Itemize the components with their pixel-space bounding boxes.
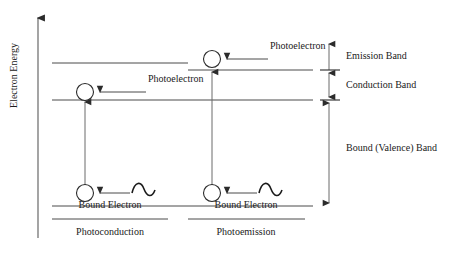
photoconduction-photon-wave-icon (132, 183, 155, 195)
photoconduction-caption: Photoconduction (76, 227, 144, 237)
band-brackets (320, 44, 340, 203)
panel-photoemission (188, 51, 313, 220)
energy-axis-label: Electron Energy (8, 43, 19, 108)
photoconduction-photoelectron-label: Photoelectron (148, 74, 204, 84)
panel-photoconduction (52, 63, 188, 219)
conduction-band-label: Conduction Band (346, 80, 416, 90)
photoemission-photon-wave-icon (259, 183, 282, 195)
photoemission-photoelectron-circle (204, 51, 221, 68)
energy-band-diagram (0, 0, 452, 260)
photoemission-caption: Photoemission (217, 227, 276, 237)
valence-band-label: Bound (Valence) Band (346, 143, 437, 153)
emission-band-label: Emission Band (346, 51, 407, 61)
photoconduction-bound-electron-label: Bound Electron (78, 200, 141, 210)
figure-canvas: Electron Energy Photoelectron Bound Elec… (0, 0, 452, 260)
photoconduction-photoelectron-circle (77, 84, 94, 101)
photoemission-bound-electron-label: Bound Electron (214, 200, 277, 210)
photoemission-photoelectron-label: Photoelectron (270, 41, 326, 51)
